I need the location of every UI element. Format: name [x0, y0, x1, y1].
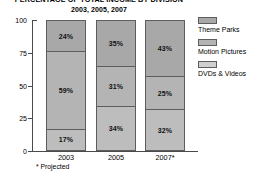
y-tick-label-100: 100	[15, 17, 27, 24]
segment-value-label: 17%	[59, 136, 73, 143]
segment-value-label: 24%	[59, 33, 73, 40]
legend-swatch-icon	[198, 39, 217, 46]
bar-series-container: 24% 59% 17% 35% 31% 34%	[32, 20, 192, 151]
plot-area: 100 75 50 25 0 24% 59% 17% 35%	[32, 20, 192, 151]
legend-label: Motion Pictures	[198, 47, 263, 56]
chart-legend: Theme Parks Motion Pictures DVDs & Video…	[198, 17, 263, 83]
legend-label: DVDs & Videos	[198, 69, 263, 78]
y-tick-label-50: 50	[19, 82, 27, 89]
segment-value-label: 59%	[59, 87, 73, 94]
bar-group-2003: 24% 59% 17%	[46, 20, 86, 151]
page-title: PERCENTAGE OF TOTAL INCOME BY DIVISION	[0, 0, 198, 4]
segment-motion-pictures-2007: 25%	[145, 76, 185, 109]
legend-swatch-icon	[198, 17, 217, 24]
legend-item-motion-pictures: Motion Pictures	[198, 39, 263, 56]
legend-item-theme-parks: Theme Parks	[198, 17, 263, 34]
segment-value-label: 43%	[158, 45, 172, 52]
segment-value-label: 31%	[109, 83, 123, 90]
segment-value-label: 34%	[109, 125, 123, 132]
segment-motion-pictures-2003: 59%	[46, 51, 86, 128]
segment-dvds-videos-2003: 17%	[46, 129, 86, 151]
segment-theme-parks-2003: 24%	[46, 20, 86, 51]
segment-theme-parks-2007: 43%	[145, 20, 185, 76]
segment-value-label: 32%	[158, 127, 172, 134]
bar-group-2007: 43% 25% 32%	[145, 20, 185, 151]
x-tick-label-2007: 2007*	[137, 154, 193, 162]
chart-footnote: * Projected	[36, 163, 69, 171]
stacked-bar-chart: PERCENTAGE OF TOTAL INCOME BY DIVISION 2…	[0, 0, 263, 180]
x-tick-label-2005: 2005	[88, 154, 144, 162]
bar-group-2005: 35% 31% 34%	[96, 20, 136, 151]
chart-title-block: PERCENTAGE OF TOTAL INCOME BY DIVISION 2…	[0, 0, 198, 14]
segment-dvds-videos-2007: 32%	[145, 109, 185, 151]
x-tick-label-2003: 2003	[38, 154, 94, 162]
segment-value-label: 35%	[109, 40, 123, 47]
segment-motion-pictures-2005: 31%	[96, 66, 136, 107]
segment-dvds-videos-2005: 34%	[96, 106, 136, 151]
legend-swatch-icon	[198, 61, 217, 68]
segment-theme-parks-2005: 35%	[96, 20, 136, 66]
x-axis-line	[28, 151, 198, 152]
legend-label: Theme Parks	[198, 25, 263, 34]
segment-value-label: 25%	[158, 90, 172, 97]
y-tick-label-75: 75	[19, 49, 27, 56]
legend-item-dvds-videos: DVDs & Videos	[198, 61, 263, 78]
y-tick-label-0: 0	[23, 148, 27, 155]
y-tick-label-25: 25	[19, 115, 27, 122]
chart-subtitle: 2003, 2005, 2007	[0, 5, 198, 14]
